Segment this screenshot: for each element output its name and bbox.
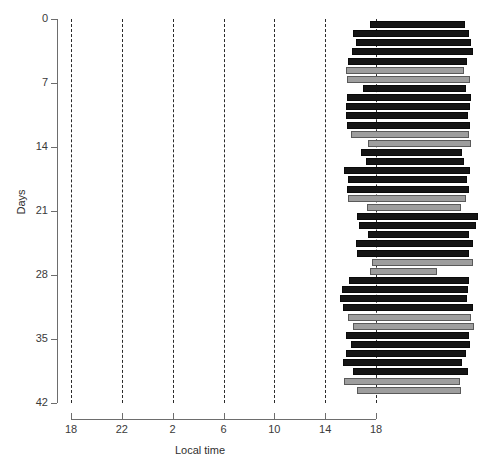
activity-bar-day-28 <box>349 277 468 284</box>
activity-bar-day-39 <box>344 378 460 385</box>
activity-bar-day-8 <box>347 94 472 101</box>
y-tick-35 <box>51 339 57 340</box>
x-tick-label-3: 6 <box>204 424 244 435</box>
x-tick-label-4: 10 <box>254 424 294 435</box>
y-tick-label-21: 21 <box>8 205 48 216</box>
activity-bar-day-1 <box>353 30 469 37</box>
x-tick-1 <box>122 413 123 419</box>
activity-bar-day-15 <box>366 158 464 165</box>
x-tick-3 <box>224 413 225 419</box>
activity-bar-day-16 <box>344 167 470 174</box>
y-tick-21 <box>51 211 57 212</box>
activity-bar-day-37 <box>343 359 462 366</box>
x-tick-label-2: 2 <box>153 424 193 435</box>
y-axis-line <box>57 19 58 403</box>
y-tick-label-0: 0 <box>8 13 48 24</box>
activity-bar-day-2 <box>356 39 472 46</box>
x-tick-5 <box>325 413 326 419</box>
activity-bar-day-31 <box>343 304 473 311</box>
activity-bar-day-13 <box>368 140 471 147</box>
activity-bar-day-40 <box>357 387 461 394</box>
x-tick-label-5: 14 <box>305 424 345 435</box>
activity-bar-day-11 <box>347 122 470 129</box>
y-tick-label-42: 42 <box>8 397 48 408</box>
activity-bar-day-29 <box>342 286 468 293</box>
y-tick-28 <box>51 275 57 276</box>
activity-bar-day-21 <box>357 213 478 220</box>
activity-bar-day-26 <box>372 259 472 266</box>
gridline-14 <box>325 19 326 403</box>
gridline-2 <box>173 19 174 403</box>
activity-bar-day-35 <box>351 341 470 348</box>
activity-bar-day-38 <box>353 368 467 375</box>
activity-bar-day-22 <box>359 222 476 229</box>
activity-bar-day-25 <box>357 250 469 257</box>
y-tick-label-28: 28 <box>8 269 48 280</box>
activity-bar-day-20 <box>367 204 461 211</box>
x-tick-2 <box>173 413 174 419</box>
activity-bar-day-19 <box>348 195 466 202</box>
activity-bar-day-0 <box>370 21 465 28</box>
x-tick-0 <box>71 413 72 419</box>
y-tick-42 <box>51 403 57 404</box>
activity-bar-day-32 <box>348 314 471 321</box>
x-tick-4 <box>274 413 275 419</box>
x-axis-title: Local time <box>0 444 400 456</box>
activity-bar-day-24 <box>356 240 473 247</box>
activity-bar-day-3 <box>352 48 473 55</box>
figure-caption <box>16 466 396 473</box>
activity-bar-day-5 <box>346 67 464 74</box>
gridline-10 <box>274 19 275 403</box>
gridline-18 <box>71 19 72 403</box>
activity-bar-day-7 <box>363 85 466 92</box>
x-tick-label-1: 22 <box>102 424 142 435</box>
activity-bar-day-10 <box>346 112 468 119</box>
activity-bar-day-4 <box>348 58 467 65</box>
activity-bar-day-18 <box>347 186 469 193</box>
x-tick-label-0: 18 <box>51 424 91 435</box>
y-tick-label-14: 14 <box>8 141 48 152</box>
y-tick-label-7: 7 <box>8 77 48 88</box>
x-tick-label-6: 18 <box>356 424 396 435</box>
y-tick-label-35: 35 <box>8 333 48 344</box>
y-tick-0 <box>51 19 57 20</box>
activity-bar-day-27 <box>370 268 437 275</box>
gridline-22 <box>122 19 123 403</box>
activity-bar-day-17 <box>348 176 467 183</box>
activity-bar-day-12 <box>351 131 469 138</box>
x-tick-6 <box>376 413 377 419</box>
plot-area <box>58 19 388 403</box>
y-tick-7 <box>51 83 57 84</box>
y-axis-title: Days <box>15 172 27 232</box>
activity-bar-day-36 <box>346 350 467 357</box>
y-tick-14 <box>51 147 57 148</box>
activity-bar-day-33 <box>353 323 474 330</box>
activity-bar-day-30 <box>340 295 467 302</box>
activity-bar-day-6 <box>347 76 470 83</box>
activity-bar-day-14 <box>361 149 463 156</box>
activity-bar-day-34 <box>346 332 469 339</box>
gridline-6 <box>224 19 225 403</box>
x-axis-line <box>71 419 376 420</box>
activity-bar-day-9 <box>346 103 471 110</box>
activity-bar-day-23 <box>368 231 468 238</box>
